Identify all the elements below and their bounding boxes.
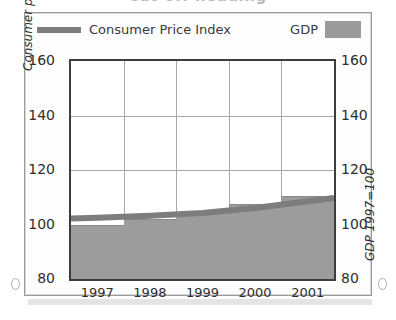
legend-item-gdp: GDP	[290, 21, 361, 38]
legend-label-cpi: Consumer Price Index	[89, 22, 231, 37]
y-axis-left-tick-80: 80	[15, 270, 55, 286]
legend-swatch-cpi-line-icon	[37, 27, 81, 33]
y-axis-left-tick-140: 140	[15, 107, 55, 123]
cut-off-title-text: cut-off heading	[129, 0, 266, 5]
plot-area	[69, 59, 336, 281]
y-axis-right-title: GDP 1997=100	[363, 168, 377, 261]
x-axis-tick-2000: 2000	[225, 285, 285, 300]
legend-swatch-gdp-box-icon	[325, 21, 361, 38]
y-axis-left-tick-100: 100	[15, 216, 55, 232]
y-axis-right-tick-80: 80	[341, 270, 385, 286]
y-axis-left-tick-160: 160	[15, 52, 55, 68]
x-axis-tick-1998: 1998	[120, 285, 180, 300]
chart-frame: Consumer Price Index GDP Consumer price …	[24, 12, 372, 296]
cpi-line-series	[71, 61, 334, 279]
legend-label-gdp: GDP	[290, 22, 318, 37]
y-axis-right-tick-140: 140	[341, 107, 385, 123]
chart-legend: Consumer Price Index GDP	[25, 19, 371, 43]
x-axis-tick-1999: 1999	[173, 285, 233, 300]
y-axis-right-tick-120: 120	[341, 161, 385, 177]
legend-item-cpi: Consumer Price Index	[37, 22, 231, 37]
y-axis-right-tick-160: 160	[341, 52, 385, 68]
x-axis-tick-1997: 1997	[67, 285, 127, 300]
y-axis-right-tick-100: 100	[341, 216, 385, 232]
x-axis-tick-2001: 2001	[278, 285, 338, 300]
cut-off-title-strip: cut-off heading	[0, 0, 396, 11]
y-axis-left-tick-120: 120	[15, 161, 55, 177]
cpi-line-path	[71, 198, 334, 219]
